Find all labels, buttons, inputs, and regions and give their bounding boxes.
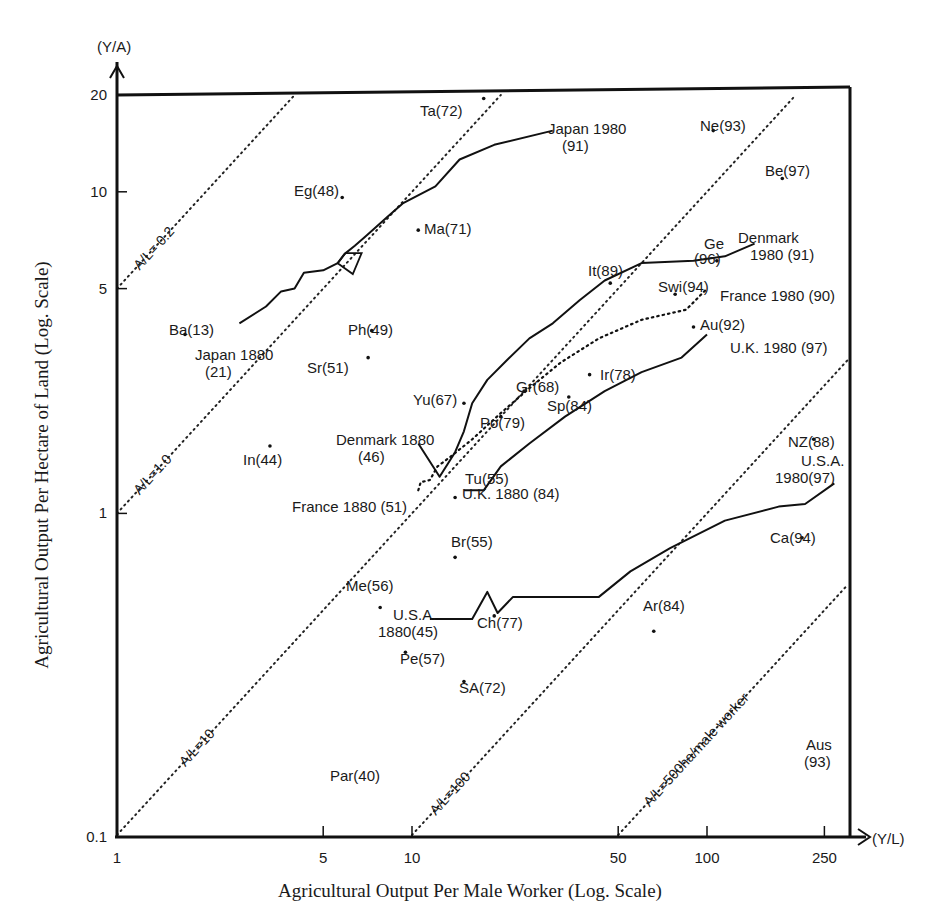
x-unit-label: (Y/L) xyxy=(872,830,905,847)
data-point-label: Yu(67) xyxy=(413,391,457,408)
series-line-japan xyxy=(239,131,552,324)
series-end-label-line: 1880(45) xyxy=(378,623,438,640)
y-unit-label: (Y/A) xyxy=(97,38,131,55)
data-point-label: Me(56) xyxy=(346,577,394,594)
data-point-label: Br(55) xyxy=(451,533,493,550)
data-point-label: Ba(13) xyxy=(169,321,214,338)
series-end-label-line: U.K. 1880 (84) xyxy=(462,485,560,502)
series-end-label-line: (46) xyxy=(358,448,385,465)
data-point-label-line: (96) xyxy=(694,250,721,267)
data-point-label: Be(97) xyxy=(765,162,810,179)
data-points: Ta(72)Ne(93)Be(97)Eg(48)Ma(71)Ge(96)It(8… xyxy=(169,97,835,784)
series-end-label-line: 1980 (91) xyxy=(750,246,814,263)
data-point-label: In(44) xyxy=(243,451,282,468)
data-point-label: Ir(78) xyxy=(600,366,636,383)
series-end-label-line: Denmark xyxy=(738,229,799,246)
ratio-line-label: A/L=1.0 xyxy=(130,451,175,498)
y-tick-label: 5 xyxy=(99,280,107,297)
data-point-label: Ch(77) xyxy=(477,614,523,631)
y-axis-title: Agricultural Output Per Hectare of Land … xyxy=(31,261,53,668)
data-point-marker xyxy=(453,496,457,500)
data-point-marker xyxy=(692,325,696,329)
series-end-label: U.S.A.1880(45) xyxy=(378,606,438,640)
data-point-label: Ca(94) xyxy=(770,529,816,546)
data-point-label: Par(40) xyxy=(330,767,380,784)
data-point-label: Sr(51) xyxy=(307,359,349,376)
data-point-label: Tu(55) xyxy=(465,470,509,487)
x-tick-label: 100 xyxy=(694,849,719,866)
data-point-label: Eg(48) xyxy=(294,182,339,199)
top-border xyxy=(117,87,850,95)
series-end-label: Denmark1980 (91) xyxy=(738,229,814,263)
japan-loop-mark xyxy=(338,253,362,274)
y-tick-label: 10 xyxy=(90,183,107,200)
series-end-label-line: U.K. 1980 (97) xyxy=(730,339,828,356)
data-point-marker xyxy=(588,373,592,377)
data-point-marker xyxy=(462,401,466,405)
series-end-label: U.S.A.1980(97) xyxy=(775,452,844,486)
series-end-label-line: France 1980 (90) xyxy=(720,287,835,304)
data-point-label: It(89) xyxy=(588,262,623,279)
series-end-label: France 1980 (90) xyxy=(720,287,835,304)
data-point-label: Pe(57) xyxy=(400,650,445,667)
data-point-label: Ar(84) xyxy=(643,597,685,614)
y-ticks: 0.1151020 xyxy=(86,86,127,845)
ratio-line xyxy=(117,95,796,835)
x-tick-label: 50 xyxy=(610,849,627,866)
x-tick-label: 250 xyxy=(812,849,837,866)
ratio-line-label: A/L=500ha/male worker xyxy=(640,689,752,809)
data-point-marker xyxy=(453,556,457,560)
data-point-label: NZ(88) xyxy=(788,433,835,450)
series-end-label: Japan 1980(91) xyxy=(548,120,626,154)
data-point-label-line: Aus xyxy=(806,736,832,753)
ratio-line-label: A/L=10 xyxy=(176,725,218,769)
x-tick-label: 1 xyxy=(113,849,121,866)
data-point-label-line: (93) xyxy=(804,753,831,770)
data-point-label: Ta(72) xyxy=(420,102,463,119)
series-end-label-line: 1980(97) xyxy=(775,469,835,486)
chart: A/L= 0.2A/L=1.0A/L=10A/L=100A/L=500ha/ma… xyxy=(0,0,934,902)
data-point-label: Ph(49) xyxy=(348,321,393,338)
data-point-marker xyxy=(268,444,272,448)
data-point-label: Ge(96) xyxy=(694,235,724,267)
y-tick-label: 0.1 xyxy=(86,828,107,845)
data-point-marker xyxy=(608,281,612,285)
series-end-label-line: Japan 1980 xyxy=(548,120,626,137)
series-end-label: France 1880 (51) xyxy=(292,498,407,515)
data-point-label: Sp(84) xyxy=(547,397,592,414)
data-point-label: Ne(93) xyxy=(700,117,746,134)
data-point-marker xyxy=(652,629,656,633)
data-point-label: SA(72) xyxy=(459,679,506,696)
data-point-label: Au(92) xyxy=(700,316,745,333)
series-end-label-line: Japan 1880 xyxy=(195,346,273,363)
ratio-line xyxy=(117,95,501,513)
series-end-label: U.K. 1980 (97) xyxy=(730,339,828,356)
series-line-usa xyxy=(430,483,834,619)
series-end-label: Denmark 1880(46) xyxy=(336,431,434,465)
plot-frame xyxy=(110,62,870,845)
series-end-label-line: U.S.A. xyxy=(801,452,844,469)
data-point-marker xyxy=(416,228,420,232)
x-tick-label: 10 xyxy=(404,849,421,866)
data-point-marker xyxy=(366,356,370,360)
data-point-marker xyxy=(482,97,486,101)
data-point-label: Swi(94) xyxy=(658,278,709,295)
series-end-label: U.K. 1880 (84) xyxy=(462,485,560,502)
ratio-line xyxy=(412,360,848,835)
ratio-line-label: A/L= 0.2 xyxy=(130,223,177,273)
series-end-label-line: (91) xyxy=(562,137,589,154)
data-point-label: Po(79) xyxy=(480,414,525,431)
data-point-label: Aus(93) xyxy=(804,736,832,770)
data-point-marker xyxy=(378,606,382,610)
data-point-label: Ma(71) xyxy=(424,220,472,237)
series-end-label-line: France 1880 (51) xyxy=(292,498,407,515)
x-ticks: 151050100250 xyxy=(113,826,837,866)
reference-lines: A/L= 0.2A/L=1.0A/L=10A/L=100A/L=500ha/ma… xyxy=(117,95,848,835)
series-end-label: Japan 1880(21) xyxy=(195,346,273,380)
data-point-label: Gr(68) xyxy=(516,378,559,395)
series-end-label-line: (21) xyxy=(205,363,232,380)
x-tick-label: 5 xyxy=(319,849,327,866)
data-point-marker xyxy=(340,196,344,200)
series-end-label-line: U.S.A. xyxy=(393,606,436,623)
series-end-label-line: Denmark 1880 xyxy=(336,431,434,448)
